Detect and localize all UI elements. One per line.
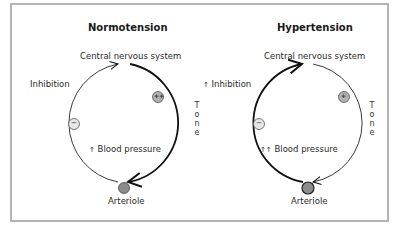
tone-sign: + — [341, 93, 346, 99]
hypertension-title: Hypertension — [277, 23, 353, 33]
blood-pressure-label: ↑↑ Blood pressure — [260, 145, 338, 154]
normotension-title: Normotension — [88, 23, 168, 33]
arteriole-node — [119, 183, 130, 194]
inhibition-text: Inhibition — [30, 79, 70, 89]
arteriole-label: Arteriole — [291, 197, 328, 206]
inhibition-sign: − — [71, 120, 77, 127]
inhibition-label: Inhibition — [30, 80, 70, 89]
tone-arc — [128, 64, 178, 182]
arteriole-label: Arteriole — [108, 197, 145, 206]
inhibition-text: Inhibition — [212, 79, 252, 89]
blood-pressure-label: ↑ Blood pressure — [89, 145, 161, 154]
tone-label: T o n e — [193, 101, 201, 137]
cns-label: Central nervous system — [264, 52, 365, 61]
tone-arc — [313, 64, 362, 182]
cns-label: Central nervous system — [80, 52, 181, 61]
inhibition-label: ↑ Inhibition — [203, 80, 251, 89]
inhibition-sign: − — [256, 120, 262, 127]
blood-pressure-text: Blood pressure — [98, 144, 161, 154]
blood-pressure-arrows: ↑↑ — [260, 146, 272, 154]
arteriole-node — [302, 182, 314, 194]
inhibition-arrows: ↑ — [203, 81, 209, 89]
hypertension-loop — [253, 64, 362, 194]
normotension-loop — [69, 64, 179, 194]
blood-pressure-arrows: ↑ — [89, 146, 95, 154]
tone-label: T o n e — [368, 101, 376, 137]
blood-pressure-text: Blood pressure — [274, 144, 337, 154]
tone-sign: ++ — [154, 93, 164, 99]
